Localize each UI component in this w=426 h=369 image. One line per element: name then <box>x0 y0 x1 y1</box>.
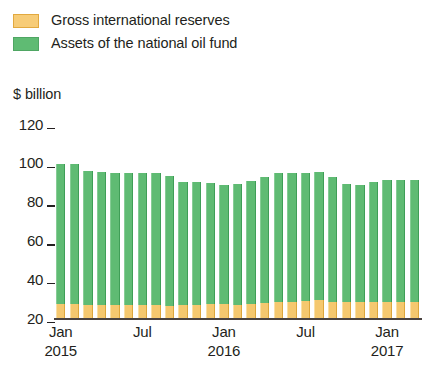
bar-mar-2017 <box>410 180 419 318</box>
y-tick-label: 100 <box>19 154 43 171</box>
bar-segment-oilfund <box>124 173 133 305</box>
y-tick-mark <box>47 167 55 169</box>
bar-dec-2016 <box>369 182 378 318</box>
bar-aug-2015 <box>151 173 160 319</box>
bar-segment-oilfund <box>192 182 201 305</box>
x-tick-month-label: Jan <box>371 322 404 341</box>
x-tick-month-label: Jul <box>133 322 152 341</box>
x-tick-jan-2017: Jan2017 <box>371 322 404 360</box>
bar-segment-reserves <box>219 304 228 318</box>
bar-segment-reserves <box>110 305 119 318</box>
bar-feb-2016 <box>233 184 242 318</box>
bar-segment-reserves <box>246 304 255 318</box>
y-tick-label: 40 <box>27 271 43 288</box>
bar-dec-2015 <box>206 183 215 318</box>
bar-segment-oilfund <box>369 182 378 301</box>
bar-segment-reserves <box>314 300 323 318</box>
plot-area: 20406080100120 <box>0 0 426 369</box>
bar-segment-oilfund <box>314 172 323 300</box>
chart-figure: Gross international reserves Assets of t… <box>0 0 426 369</box>
x-tick-month-label: Jan <box>208 322 241 341</box>
bar-segment-oilfund <box>206 183 215 304</box>
bar-jan-2016 <box>219 185 228 318</box>
bar-segment-oilfund <box>138 173 147 306</box>
y-tick-100: 100 <box>19 154 55 172</box>
bar-mar-2015 <box>83 171 92 318</box>
bar-feb-2015 <box>70 164 79 318</box>
x-tick-jul-3: Jul <box>296 322 315 341</box>
bar-segment-reserves <box>206 304 215 318</box>
bar-feb-2017 <box>396 180 405 318</box>
bar-jan-2017 <box>382 180 391 318</box>
bar-jun-2015 <box>124 173 133 318</box>
bar-segment-reserves <box>97 305 106 318</box>
y-tick-mark <box>47 128 55 130</box>
bar-may-2016 <box>274 173 283 318</box>
bar-segment-oilfund <box>355 185 364 302</box>
y-tick-mark <box>47 283 55 285</box>
bar-oct-2016 <box>342 184 351 318</box>
bar-segment-oilfund <box>151 173 160 306</box>
bar-sep-2015 <box>165 176 174 318</box>
bar-segment-reserves <box>83 305 92 318</box>
bar-segment-oilfund <box>410 180 419 301</box>
bar-segment-reserves <box>178 305 187 318</box>
bar-segment-reserves <box>287 302 296 318</box>
bar-segment-oilfund <box>396 180 405 301</box>
bar-apr-2015 <box>97 172 106 318</box>
bar-nov-2016 <box>355 185 364 318</box>
y-tick-120: 120 <box>19 115 55 133</box>
bar-nov-2015 <box>192 182 201 318</box>
bar-segment-reserves <box>233 305 242 318</box>
x-tick-month-label: Jan <box>44 322 77 341</box>
x-tick-jan-2016: Jan2016 <box>208 322 241 360</box>
bar-segment-oilfund <box>56 164 65 305</box>
bar-mar-2016 <box>246 181 255 318</box>
bar-segment-reserves <box>382 302 391 318</box>
y-tick-80: 80 <box>27 193 55 211</box>
bar-segment-oilfund <box>70 164 79 305</box>
bar-segment-oilfund <box>233 184 242 305</box>
bar-segment-reserves <box>124 305 133 318</box>
bar-segment-reserves <box>355 302 364 318</box>
bar-segment-oilfund <box>301 173 310 301</box>
bar-segment-oilfund <box>178 182 187 305</box>
x-tick-year-label: 2015 <box>44 341 77 360</box>
y-tick-label: 60 <box>27 232 43 249</box>
bar-segment-reserves <box>56 304 65 318</box>
y-tick-60: 60 <box>27 231 55 249</box>
bar-apr-2016 <box>260 177 269 318</box>
bar-segment-oilfund <box>246 181 255 304</box>
bar-segment-reserves <box>138 305 147 318</box>
bar-segment-reserves <box>151 305 160 318</box>
bar-segment-oilfund <box>97 172 106 306</box>
bar-segment-oilfund <box>328 177 337 301</box>
x-tick-year-label: 2017 <box>371 341 404 360</box>
x-tick-year-label: 2016 <box>208 341 241 360</box>
bar-segment-oilfund <box>274 173 283 302</box>
bar-segment-oilfund <box>165 176 174 306</box>
bar-jun-2016 <box>287 173 296 318</box>
bar-segment-oilfund <box>260 177 269 303</box>
bar-segment-reserves <box>260 303 269 318</box>
bar-jan-2015 <box>56 164 65 318</box>
bar-segment-reserves <box>328 302 337 318</box>
bar-oct-2015 <box>178 182 187 318</box>
y-axis-ticks: 20406080100120 <box>0 0 55 369</box>
bar-segment-reserves <box>192 305 201 318</box>
y-tick-mark <box>47 244 55 246</box>
bar-sep-2016 <box>328 177 337 318</box>
y-tick-label: 120 <box>19 116 43 133</box>
x-axis-ticks: Jan2015JulJan2016JulJan2017 <box>0 322 426 368</box>
x-tick-jul-1: Jul <box>133 322 152 341</box>
bar-segment-oilfund <box>342 184 351 302</box>
bar-segment-oilfund <box>83 171 92 306</box>
y-tick-mark <box>47 205 55 207</box>
bar-aug-2016 <box>314 172 323 318</box>
y-tick-label: 80 <box>27 193 43 210</box>
bar-segment-reserves <box>274 302 283 318</box>
bar-segment-oilfund <box>219 185 228 304</box>
bar-segment-reserves <box>396 302 405 318</box>
bar-jul-2016 <box>301 173 310 319</box>
bar-segment-oilfund <box>287 173 296 301</box>
